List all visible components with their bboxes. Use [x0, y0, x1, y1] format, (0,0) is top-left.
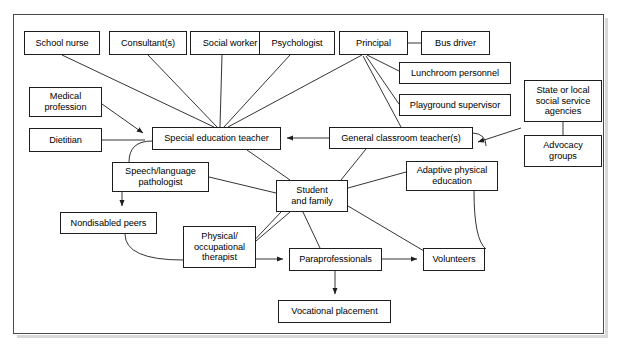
edge-principal-to-general-classroom-teacher	[363, 56, 401, 127]
node-state-local-agencies[interactable]: State or local social service agencies	[524, 80, 602, 122]
node-vocational-placement[interactable]: Vocational placement	[278, 300, 391, 323]
edge-adaptive-pe-to-student-and-family	[348, 172, 406, 188]
node-bus-driver[interactable]: Bus driver	[421, 31, 490, 55]
node-nondisabled-peers[interactable]: Nondisabled peers	[60, 212, 157, 234]
node-special-ed-teacher[interactable]: Special education teacher	[152, 127, 281, 150]
node-adaptive-physical-education[interactable]: Adaptive physical education	[406, 161, 498, 191]
edge-medical-profession-to-special-ed-teacher	[102, 104, 143, 133]
edge-general-classroom-teacher-elbow	[473, 133, 486, 146]
node-lunchroom-personnel[interactable]: Lunchroom personnel	[399, 62, 511, 84]
edge-psychologist-to-special-ed-teacher	[224, 55, 290, 127]
edge-social-worker-to-special-ed-teacher	[220, 55, 222, 127]
node-advocacy-groups[interactable]: Advocacy groups	[524, 135, 602, 167]
edge-adaptive-pe-to-volunteers	[474, 191, 486, 249]
node-medical-profession[interactable]: Medical profession	[29, 87, 102, 117]
edge-principal-to-lunchroom-personnel	[367, 55, 399, 71]
edge-student-and-family-to-paraprofessionals	[303, 212, 320, 248]
edge-student-and-family-to-volunteers	[348, 206, 424, 251]
edge-pt-ot-to-student-and-family	[256, 212, 290, 241]
node-paraprofessionals[interactable]: Paraprofessionals	[289, 248, 382, 271]
node-school-nurse[interactable]: School nurse	[24, 31, 100, 55]
node-playground-supervisor[interactable]: Playground supervisor	[399, 94, 511, 116]
node-social-worker[interactable]: Social worker	[190, 31, 270, 55]
node-dietitian[interactable]: Dietitian	[29, 128, 102, 152]
node-physical-occupational-therapist[interactable]: Physical/ occupational therapist	[183, 226, 256, 268]
node-general-classroom-teacher[interactable]: General classroom teacher(s)	[329, 127, 473, 149]
node-psychologist[interactable]: Psychologist	[259, 31, 335, 55]
edge-principal-to-special-ed-teacher	[228, 55, 362, 127]
edge-special-ed-teacher-to-speech-pathologist	[129, 141, 152, 162]
node-principal[interactable]: Principal	[339, 31, 408, 55]
edge-general-classroom-teacher-to-student-and-family	[341, 149, 366, 180]
node-speech-language-pathologist[interactable]: Speech/language pathologist	[112, 162, 209, 192]
edge-consultants-to-special-ed-teacher	[148, 55, 217, 127]
node-student-and-family[interactable]: Student and family	[276, 180, 348, 212]
diagram-canvas: School nurse Consultant(s) Social worker…	[0, 0, 622, 349]
edge-speech-pathologist-to-student-and-family	[209, 177, 276, 193]
edge-special-ed-teacher-to-student-and-family	[247, 150, 290, 180]
node-consultants[interactable]: Consultant(s)	[109, 31, 187, 55]
edge-nondisabled-peers-to-pt-ot	[125, 234, 183, 260]
node-volunteers[interactable]: Volunteers	[423, 248, 485, 271]
